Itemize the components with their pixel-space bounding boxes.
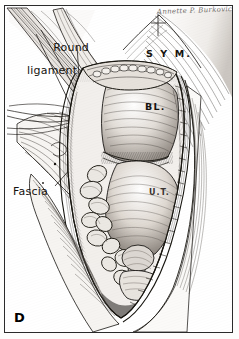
panel-letter: D — [14, 310, 25, 325]
plate-frame: Round ligament Fascia S Y M. BL. U.T. An… — [4, 5, 233, 333]
anatomical-drawing — [5, 6, 233, 333]
medical-illustration-figure: Round ligament Fascia S Y M. BL. U.T. An… — [0, 0, 239, 339]
